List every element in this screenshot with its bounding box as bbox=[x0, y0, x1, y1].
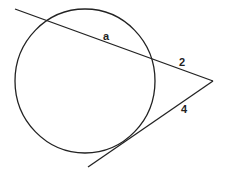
circle bbox=[15, 9, 155, 153]
tangent-label: 4 bbox=[181, 103, 188, 115]
diagram-canvas: a 2 4 bbox=[0, 0, 226, 172]
external-secant-label: 2 bbox=[179, 56, 185, 68]
tangent-line bbox=[88, 81, 213, 167]
secant-line bbox=[15, 9, 213, 81]
chord-label: a bbox=[103, 30, 110, 42]
